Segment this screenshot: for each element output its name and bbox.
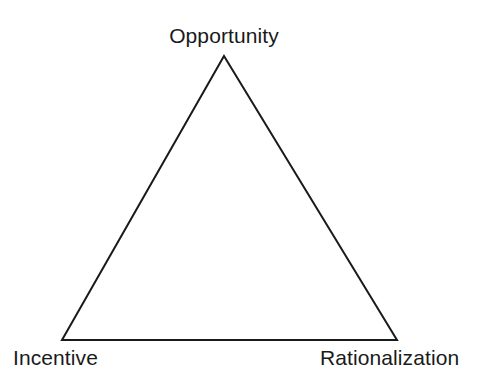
vertex-label-rationalization: Rationalization [320,347,459,369]
triangle-outline [62,56,397,340]
fraud-triangle-diagram: Opportunity Incentive Rationalization [0,0,483,380]
vertex-label-opportunity: Opportunity [0,25,448,47]
triangle-shape [0,0,483,380]
vertex-label-incentive: Incentive [13,347,98,369]
